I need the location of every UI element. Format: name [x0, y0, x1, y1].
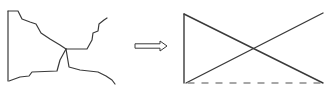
right-arrow-icon [135, 41, 167, 51]
arrow-outline [135, 41, 167, 51]
top-jagged-line [8, 11, 66, 49]
diagram-canvas [0, 0, 334, 91]
right-upper-jagged-line [66, 18, 107, 49]
right-lower-jagged-line [66, 49, 115, 84]
bottom-jagged-line [9, 49, 66, 81]
simplified-figure [184, 13, 323, 83]
irregular-figure [8, 11, 115, 84]
